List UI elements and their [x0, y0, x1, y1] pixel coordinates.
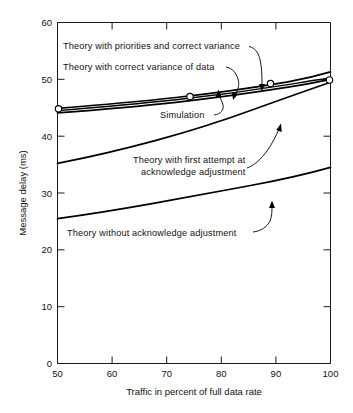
y-tick-label: 0	[47, 358, 52, 369]
y-tick-label: 50	[41, 74, 52, 85]
x-tick-label: 100	[323, 368, 339, 379]
annotation-theory-first-attempt-line2: acknowledge adjustment	[141, 167, 246, 177]
chart-svg: 60 50 40 30 20 10 0 50 60 70 80 90 100 T…	[0, 0, 353, 413]
x-tick-label: 70	[161, 368, 172, 379]
y-tick-label: 40	[41, 131, 52, 142]
x-axis-title: Traffic in percent of full data rate	[126, 386, 262, 397]
annotation-theory-correct-variance: Theory with correct variance of data	[63, 62, 215, 72]
annotation-theory-priorities: Theory with priorities and correct varia…	[63, 41, 240, 51]
annotation-theory-first-attempt-line1: Theory with first attempt at	[133, 155, 246, 165]
y-tick-label: 20	[41, 244, 52, 255]
x-tick-label: 50	[52, 368, 63, 379]
y-tick-label: 10	[41, 301, 52, 312]
y-tick-label: 60	[41, 17, 52, 28]
chart-figure: 60 50 40 30 20 10 0 50 60 70 80 90 100 T…	[0, 0, 353, 413]
x-tick-label: 90	[271, 368, 282, 379]
annotation-simulation: Simulation	[160, 110, 204, 120]
data-point-marker	[326, 77, 332, 83]
x-tick-label: 60	[107, 368, 118, 379]
data-point-marker	[187, 93, 193, 99]
annotation-theory-without-ack: Theory without acknowledge adjustment	[67, 228, 237, 238]
data-point-marker	[267, 80, 273, 86]
y-tick-label: 30	[41, 188, 52, 199]
x-tick-label: 80	[216, 368, 227, 379]
data-point-marker	[55, 106, 61, 112]
y-axis-title: Message delay (ms)	[17, 150, 28, 236]
